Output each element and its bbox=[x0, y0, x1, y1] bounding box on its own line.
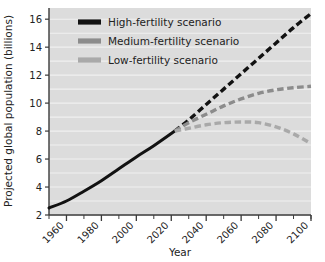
x-axis-title: Year bbox=[168, 246, 192, 258]
y-tick-label: 4 bbox=[36, 182, 42, 193]
chart-canvas: 246810121416 196019802000202020402060208… bbox=[0, 0, 325, 262]
y-tick-label: 6 bbox=[36, 154, 42, 165]
legend-label: High-fertility scenario bbox=[108, 16, 221, 28]
legend-label: Medium-fertility scenario bbox=[108, 35, 239, 47]
legend-label: Low-fertility scenario bbox=[108, 54, 218, 66]
y-tick-label: 14 bbox=[29, 42, 42, 53]
y-tick-label: 12 bbox=[29, 70, 42, 81]
y-tick-label: 16 bbox=[29, 14, 42, 25]
y-tick-label: 8 bbox=[36, 126, 42, 137]
population-projection-chart: 246810121416 196019802000202020402060208… bbox=[0, 0, 325, 262]
y-tick-label: 2 bbox=[36, 210, 42, 221]
y-tick-label: 10 bbox=[29, 98, 42, 109]
y-axis-title: Projected global population (billions) bbox=[2, 15, 14, 207]
